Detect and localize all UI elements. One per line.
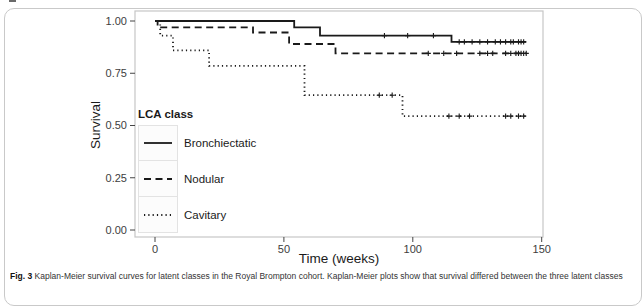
solid-line-key-icon <box>138 125 178 161</box>
legend-entry-nodular: Nodular <box>138 161 288 197</box>
x-axis-title: Time (weeks) <box>239 251 439 266</box>
legend-entry-cavitary: Cavitary <box>138 197 288 233</box>
caption-text: Kaplan-Meier survival curves for latent … <box>35 271 623 281</box>
dotted-line-key-icon <box>138 197 178 233</box>
kaplan-meier-chart: 0.000.250.500.751.00050100150 Survival T… <box>0 0 644 270</box>
svg-text:0.75: 0.75 <box>106 67 127 79</box>
svg-text:0.25: 0.25 <box>106 172 127 184</box>
legend-title: LCA class <box>138 108 288 120</box>
svg-text:1.00: 1.00 <box>106 15 127 27</box>
dashed-line-key-icon <box>138 161 178 197</box>
legend-label: Cavitary <box>184 209 226 221</box>
caption-label: Fig. 3 <box>10 271 32 281</box>
legend-label: Bronchiectatic <box>184 137 256 149</box>
legend: LCA class Bronchiectatic Nodular Cavitar… <box>138 108 288 233</box>
svg-text:150: 150 <box>533 243 551 255</box>
y-axis-title: Survival <box>65 118 125 132</box>
legend-entry-bronchiectatic: Bronchiectatic <box>138 125 288 161</box>
figure-caption: Fig. 3 Kaplan-Meier survival curves for … <box>10 271 640 282</box>
svg-text:0.00: 0.00 <box>106 224 127 236</box>
svg-text:0: 0 <box>152 243 158 255</box>
legend-label: Nodular <box>184 173 224 185</box>
